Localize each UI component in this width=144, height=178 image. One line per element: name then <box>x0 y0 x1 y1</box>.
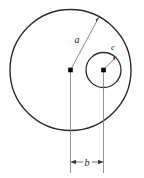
inner-center-marker <box>101 68 106 73</box>
radius-a-arrowhead <box>96 17 99 22</box>
geometry-diagram: a c b <box>0 0 144 178</box>
label-radius-a: a <box>75 34 80 45</box>
label-dimension-b: b <box>85 157 90 168</box>
outer-center-marker <box>68 68 73 73</box>
dimension-b-left-arrowhead <box>71 160 77 164</box>
geometry-canvas: a c b <box>0 0 144 178</box>
label-radius-c: c <box>111 42 115 52</box>
dimension-b-right-arrowhead <box>98 160 104 164</box>
